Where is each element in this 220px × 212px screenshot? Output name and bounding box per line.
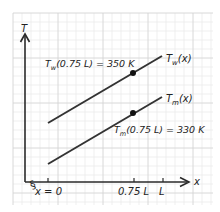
tick-label-x0: x = 0 [34, 186, 62, 197]
grid [13, 13, 213, 205]
tick-label-L: L [159, 186, 165, 197]
point-tm-075L [130, 110, 136, 116]
tick-label-075L: 0.75 L [118, 186, 149, 197]
y-axis-label: T [21, 23, 28, 34]
temperature-profile-diagram: § T x x = 0 0.75 L L Tw(x) Tm(x) Tw(0.75… [0, 0, 220, 212]
x-axis-label: x [193, 176, 200, 187]
point-tw-075L [130, 70, 136, 76]
